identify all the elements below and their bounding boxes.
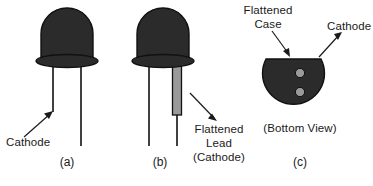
panel-b-caption: (b) — [153, 155, 168, 169]
panel-a-led — [36, 8, 98, 146]
panel-c-cathode-label: Cathode — [327, 20, 371, 34]
diagram-canvas — [0, 0, 373, 186]
panel-c-cathode-arrow — [319, 32, 342, 57]
panel-c-caption: (c) — [293, 155, 307, 169]
panel-b-flattened-lead-arrow — [190, 93, 217, 121]
panel-c-flattened-label: Flattened — [244, 4, 293, 18]
panel-a-cathode-arrow — [24, 111, 53, 137]
panel-c-case-label: Case — [254, 18, 281, 32]
panel-b-flattened-lead — [173, 62, 182, 115]
panel-c-bottom-view-label: (Bottom View) — [263, 122, 336, 136]
panel-b-lead-label: Lead — [206, 137, 232, 151]
led-cathode-identification-figure: Cathode (a) Flattened Lead (Cathode) (b)… — [0, 0, 373, 186]
panel-c-cathode-lead-dot — [295, 68, 304, 77]
panel-b-led — [132, 8, 194, 146]
panel-b-led-flange — [132, 55, 194, 68]
panel-c-case-body — [262, 59, 324, 104]
panel-a-caption: (a) — [60, 155, 75, 169]
panel-c-anode-lead-dot — [295, 87, 304, 96]
panel-b-flattened-label: Flattened — [195, 123, 244, 137]
panel-c-flattened-case-arrow — [272, 31, 290, 57]
panel-a-led-flange — [36, 55, 98, 68]
panel-b-cathode-label: (Cathode) — [193, 151, 245, 165]
panel-c-led-bottom-view — [262, 59, 324, 104]
panel-a-cathode-label: Cathode — [6, 136, 50, 150]
